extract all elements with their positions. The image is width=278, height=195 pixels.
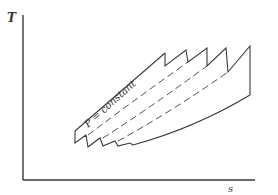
pressure-annotation: P = constant (81, 77, 138, 130)
y-axis-label: T (7, 11, 17, 25)
lower-isobar (133, 95, 250, 145)
x-axis-label: s (228, 183, 233, 194)
bottom-sawtooth (75, 131, 133, 147)
axes (23, 15, 255, 180)
ts-diagram: T s P = constant (0, 0, 278, 195)
